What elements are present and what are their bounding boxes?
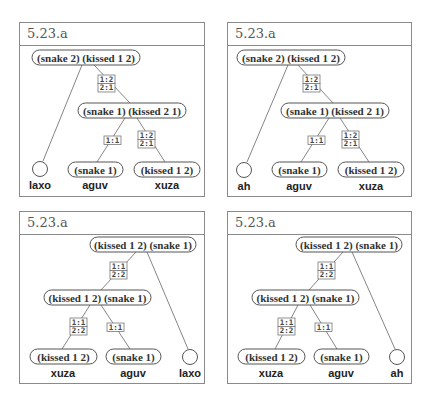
tree-node-top: (kissed 1 2) (snake 1) — [90, 237, 196, 252]
role-map-box: 1:12:2 — [278, 318, 295, 336]
node-label: (kissed 1 2) — [141, 164, 194, 177]
tree-node-mid: (kissed 1 2) (snake 1) — [44, 290, 151, 305]
node-label: (snake 2) (kissed 1 2) — [37, 52, 135, 65]
tree-node-b1: (snake 1) — [68, 162, 123, 177]
tree-edge — [43, 65, 82, 161]
node-label: (kissed 1 2) — [37, 351, 90, 364]
tree-node-b2: (snake 1) — [314, 349, 369, 364]
role-map-box: 1:12:2 — [70, 318, 87, 336]
tree-node-top: (snake 2) (kissed 1 2) — [237, 50, 345, 65]
word-label: aguv — [286, 180, 313, 192]
role-map-box: 1:22:1 — [303, 75, 320, 93]
role-map-text: 1:1 — [109, 323, 123, 332]
tree-1: (snake 2) (kissed 1 2)(snake 1) (kissed … — [29, 50, 200, 191]
role-map-box: 1:1 — [104, 136, 121, 145]
role-map-box: 1:1 — [107, 323, 124, 332]
role-map-box: 1:22:1 — [138, 131, 155, 149]
tree-2: (snake 2) (kissed 1 2)(snake 1) (kissed … — [237, 50, 405, 192]
role-map-box: 1:22:1 — [342, 131, 359, 149]
role-map-box: 1:12:2 — [110, 262, 127, 280]
word-label: xuza — [359, 180, 384, 192]
tree-diagrams: (snake 2) (kissed 1 2)(snake 1) (kissed … — [0, 0, 427, 399]
node-label: (kissed 1 2) (snake 1) — [49, 292, 147, 305]
node-label: (snake 1) (kissed 2 1) — [286, 105, 384, 118]
word-label: laxo — [29, 179, 51, 191]
tree-3: (kissed 1 2) (snake 1)(kissed 1 2) (snak… — [30, 237, 201, 379]
leaf-circle — [33, 162, 48, 177]
node-label: (kissed 1 2) (snake 1) — [257, 292, 355, 305]
role-map-box: 1:12:2 — [318, 262, 335, 280]
word-label: xuza — [51, 367, 76, 379]
tree-node-b2: (kissed 1 2) — [134, 162, 200, 177]
leaf-circle — [237, 163, 252, 178]
node-label: (kissed 1 2) — [245, 351, 298, 364]
word-label: laxo — [179, 367, 201, 379]
tree-node-b2: (kissed 1 2) — [338, 162, 404, 177]
node-label: (snake 1) — [112, 351, 155, 364]
role-map-text: 2:1 — [140, 139, 154, 148]
role-map-box: 1:1 — [308, 136, 325, 145]
word-label: ah — [391, 367, 404, 379]
tree-node-b2: (snake 1) — [106, 349, 161, 364]
node-label: (snake 1) (kissed 2 1) — [83, 105, 181, 118]
role-map-text: 2:2 — [72, 326, 86, 335]
tree-node-mid: (snake 1) (kissed 2 1) — [78, 103, 186, 118]
role-map-text: 1:1 — [310, 136, 324, 145]
role-map-text: 2:1 — [100, 83, 114, 92]
leaf-circle — [390, 350, 405, 365]
role-map-text: 2:2 — [320, 270, 334, 279]
node-label: (snake 1) — [320, 351, 363, 364]
role-map-text: 2:1 — [305, 83, 319, 92]
role-map-text: 2:2 — [112, 270, 126, 279]
tree-node-top: (kissed 1 2) (snake 1) — [296, 237, 402, 252]
tree-4: (kissed 1 2) (snake 1)(kissed 1 2) (snak… — [238, 237, 405, 379]
role-map-box: 1:1 — [315, 323, 332, 332]
word-label: aguv — [328, 367, 355, 379]
tree-node-top: (snake 2) (kissed 1 2) — [32, 50, 140, 65]
tree-node-b1: (kissed 1 2) — [30, 349, 97, 364]
tree-node-b1: (kissed 1 2) — [238, 349, 305, 364]
tree-node-mid: (snake 1) (kissed 2 1) — [281, 103, 389, 118]
tree-node-mid: (kissed 1 2) (snake 1) — [252, 290, 359, 305]
leaf-circle — [183, 350, 198, 365]
node-label: (kissed 1 2) (snake 1) — [300, 239, 398, 252]
tree-node-b1: (snake 1) — [272, 162, 327, 177]
role-map-text: 2:2 — [280, 326, 294, 335]
node-label: (kissed 1 2) (snake 1) — [94, 239, 192, 252]
role-map-box: 1:22:1 — [98, 75, 115, 93]
role-map-text: 2:1 — [344, 139, 358, 148]
word-label: aguv — [82, 179, 109, 191]
node-label: (snake 1) — [74, 164, 117, 177]
word-label: ah — [238, 180, 251, 192]
role-map-text: 1:1 — [106, 136, 120, 145]
role-map-text: 1:1 — [317, 323, 331, 332]
word-label: aguv — [120, 367, 147, 379]
node-label: (kissed 1 2) — [345, 164, 398, 177]
node-label: (snake 1) — [278, 164, 321, 177]
node-label: (snake 2) (kissed 1 2) — [242, 52, 340, 65]
tree-edge — [147, 252, 188, 349]
word-label: xuza — [259, 367, 284, 379]
word-label: xuza — [155, 179, 180, 191]
